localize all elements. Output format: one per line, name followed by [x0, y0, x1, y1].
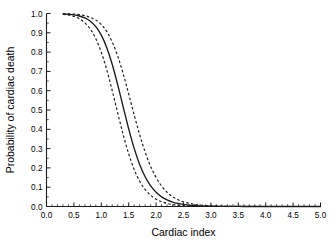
y-tick-label: 0.6 [31, 87, 43, 96]
probability-of-cardiac-death-chart: 0.00.10.20.30.40.50.60.70.80.91.0 0.00.5… [0, 0, 335, 242]
y-tick-label: 0.4 [31, 125, 43, 134]
x-tick-label: 0.5 [68, 211, 80, 220]
y-tick-label: 0.8 [31, 48, 43, 57]
x-tick-label: 1.5 [123, 211, 135, 220]
chart-figure: 0.00.10.20.30.40.50.60.70.80.91.0 0.00.5… [0, 0, 335, 242]
y-tick-label: 0.3 [31, 145, 43, 154]
x-tick-label: 3.0 [205, 211, 217, 220]
y-tick-label: 0.7 [31, 67, 43, 76]
y-axis-title: Probability of cardiac death [4, 47, 16, 174]
x-tick-label: 2.5 [178, 211, 190, 220]
x-tick-label: 1.0 [96, 211, 108, 220]
x-tick-label: 0.0 [41, 211, 53, 220]
y-tick-label: 0.2 [31, 164, 43, 173]
x-tick-label: 5.0 [315, 211, 327, 220]
x-tick-label: 2.0 [150, 211, 162, 220]
y-tick-label: 0.1 [31, 183, 43, 192]
y-tick-label: 0.9 [31, 29, 43, 38]
y-tick-label: 1.0 [31, 10, 43, 19]
x-tick-label: 4.5 [287, 211, 299, 220]
y-tick-label: 0.5 [31, 106, 43, 115]
x-tick-label: 3.5 [233, 211, 245, 220]
x-axis-title: Cardiac index [151, 226, 216, 238]
x-tick-label: 4.0 [260, 211, 272, 220]
chart-background [0, 0, 335, 242]
